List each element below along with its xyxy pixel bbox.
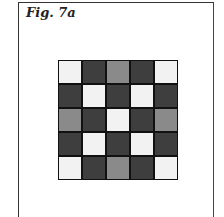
grid-cell: [83, 61, 105, 83]
grid-cell: [131, 133, 153, 155]
grid-cell: [155, 61, 177, 83]
grid-cell: [107, 157, 129, 179]
grid-cell: [131, 85, 153, 107]
grid-cell: [131, 109, 153, 131]
grid-cell: [59, 85, 81, 107]
grid-cell: [83, 85, 105, 107]
grid-cell: [59, 157, 81, 179]
grid-cell: [83, 109, 105, 131]
grid-cell: [131, 157, 153, 179]
grid-cell: [59, 61, 81, 83]
grid-cell: [131, 61, 153, 83]
grid-cell: [83, 157, 105, 179]
grid-cell: [155, 85, 177, 107]
figure-caption: Fig. 7a: [26, 5, 76, 20]
grid-cell: [107, 85, 129, 107]
grid-cell: [155, 157, 177, 179]
grid-cell: [107, 109, 129, 131]
pattern-grid: [58, 60, 178, 180]
grid-cell: [155, 109, 177, 131]
grid-cell: [107, 61, 129, 83]
grid-cell: [59, 109, 81, 131]
grid-cell: [155, 133, 177, 155]
grid-cell: [59, 133, 81, 155]
grid-cell: [83, 133, 105, 155]
grid-cell: [107, 133, 129, 155]
